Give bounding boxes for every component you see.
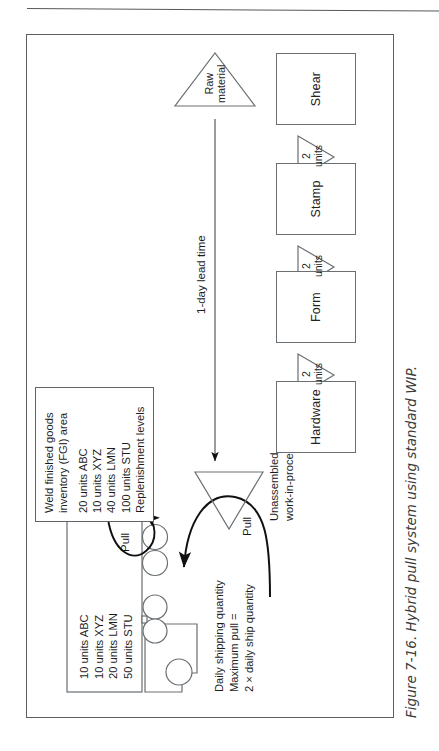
buffer-label-1: 2 units [301,141,325,171]
figure-caption: Figure 7-16. Hybrid pull system using st… [404,34,419,718]
buffer-unit: units [313,141,325,171]
fgi-level-line: 20 units ABC [76,396,90,513]
fgi-title-line: inventory (FGI) area [56,396,70,513]
fgi-box: Weld finished goods inventory (FGI) area… [35,387,154,522]
process-box-label: Hardware [309,389,323,445]
buffer-qty: 2 [301,251,313,281]
raw-material-label-line: Raw [203,65,215,103]
process-box-hardware: Hardware [276,381,356,453]
buffer-qty: 2 [301,141,313,171]
pull-label-shipping: Pull [241,517,253,536]
buffer-label-3: 2 units [301,359,325,389]
lead-time-label: 1-day lead time [195,235,207,314]
fgi-footer: Replenishment levels [133,396,147,513]
fgi-level-line: 100 units STU [119,396,133,513]
truck-cargo-line: 10 units ABC [77,529,92,679]
fgi-level-line: 10 units XYZ [90,396,104,513]
daily-shipping-note-line: Maximum pull = [227,580,242,692]
process-box-shear: Shear [276,53,356,125]
pull-label-fgi: Pull [119,533,131,552]
process-box-label: Form [309,292,323,322]
process-box-label: Stamp [309,180,323,217]
buffer-unit: units [313,359,325,389]
figure-frame: 10 units ABC 10 units XYZ 20 units LMN 5… [26,34,394,718]
daily-shipping-note: Daily shipping quantity Maximum pull = 2… [212,580,256,692]
raw-material-label-line: material [215,65,227,103]
diagram-canvas: 10 units ABC 10 units XYZ 20 units LMN 5… [27,35,395,719]
daily-shipping-note-line: Daily shipping quantity [212,580,227,692]
daily-shipping-note-line: 2 × daily ship quantity [242,580,257,692]
buffer-unit: units [313,251,325,281]
raw-material-label: Raw material [203,65,228,103]
fgi-title-line: Weld finished goods [42,396,56,513]
fgi-level-line: 40 units LMN [104,396,118,513]
page-header-rule [27,8,439,12]
process-box-label: Shear [309,72,323,106]
process-box-form: Form [276,271,356,343]
buffer-label-2: 2 units [301,251,325,281]
buffer-qty: 2 [301,359,313,389]
truck-cargo-line: 10 units XYZ [92,529,107,679]
process-box-stamp: Stamp [276,163,356,235]
